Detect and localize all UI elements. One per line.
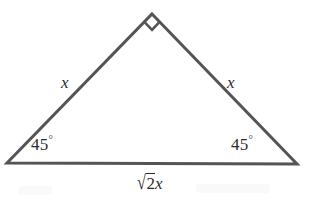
radical-sign: √ <box>137 172 146 192</box>
geometry-figure: x x 45° 45° √2x <box>0 0 312 204</box>
square-root-expression: √2 <box>137 173 155 192</box>
left-base-angle-label: 45° <box>31 136 53 153</box>
right-base-angle-value: 45 <box>231 135 248 154</box>
left-base-angle-value: 45 <box>31 135 48 154</box>
right-base-angle-label: 45° <box>231 136 253 153</box>
left-leg-label: x <box>61 74 69 91</box>
hypotenuse-variable: x <box>155 174 163 193</box>
radicand: 2 <box>146 173 155 192</box>
degree-symbol: ° <box>48 133 53 145</box>
hypotenuse-label: √2x <box>137 173 162 192</box>
degree-symbol: ° <box>248 133 253 145</box>
right-leg-label: x <box>227 74 235 91</box>
